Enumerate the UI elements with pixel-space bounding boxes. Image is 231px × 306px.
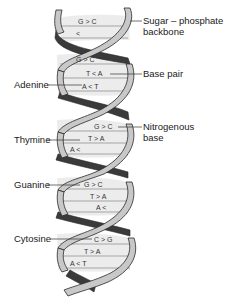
- label-line: Base pair: [143, 69, 183, 80]
- svg-text:T > A: T > A: [88, 135, 105, 142]
- label-thymine: Thymine: [14, 135, 50, 146]
- svg-text:T > A: T > A: [84, 248, 101, 255]
- label-sugar-phosphate-backbone: Sugar – phosphate backbone: [143, 16, 223, 37]
- svg-text:A <: A <: [70, 146, 80, 153]
- label-base-pair: Base pair: [143, 69, 183, 80]
- svg-text:C > G: C > G: [94, 236, 112, 243]
- svg-text:A < T: A < T: [82, 83, 99, 90]
- svg-text:A <: A <: [96, 204, 106, 211]
- svg-text:A < T: A < T: [70, 260, 87, 267]
- svg-text:<: <: [76, 30, 80, 37]
- svg-text:G > C: G > C: [84, 181, 102, 188]
- label-line: Sugar – phosphate: [143, 16, 223, 27]
- label-nitrogenous-base: Nitrogenous base: [143, 122, 194, 143]
- label-cytosine: Cytosine: [14, 234, 51, 245]
- svg-text:G > C: G > C: [78, 18, 96, 25]
- svg-text:G > C: G > C: [94, 123, 112, 130]
- svg-text:G > C: G > C: [76, 56, 94, 63]
- dna-diagram: G > C < G > C T < A A < T G > C T > A A …: [0, 0, 231, 306]
- label-line: backbone: [143, 27, 223, 38]
- svg-text:T > A: T > A: [90, 193, 107, 200]
- dna-helix-graphic: G > C < G > C T < A A < T G > C T > A A …: [0, 0, 231, 306]
- label-line: Nitrogenous: [143, 122, 194, 133]
- label-guanine: Guanine: [14, 180, 50, 191]
- svg-text:T < A: T < A: [86, 70, 103, 77]
- label-adenine: Adenine: [14, 80, 49, 91]
- label-line: base: [143, 133, 194, 144]
